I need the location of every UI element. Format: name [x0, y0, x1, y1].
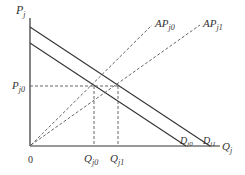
diagram-canvas: Pj Pj0 0 Qj0 Qj1 Qj Dj0 Dj1 APj0 APj1: [0, 0, 245, 175]
x-axis-label: Qj: [222, 140, 233, 155]
y-axis-label: Pj: [15, 3, 26, 19]
ap-curve-apj1: [31, 25, 200, 145]
diagram: Pj Pj0 0 Qj0 Qj1 Qj Dj0 Dj1 APj0 APj1: [0, 0, 245, 175]
ap-label-apj1: APj1: [202, 17, 223, 32]
demand-curve-dj1: [30, 27, 210, 146]
origin-label: 0: [28, 154, 33, 165]
quantity-label-qj0: Qj0: [84, 152, 98, 167]
ap-label-apj0: APj0: [154, 17, 175, 32]
price-label-pj0: Pj0: [11, 79, 25, 94]
ap-curve-apj0: [31, 25, 152, 145]
demand-curve-dj0: [30, 43, 186, 146]
quantity-label-qj1: Qj1: [110, 152, 124, 167]
